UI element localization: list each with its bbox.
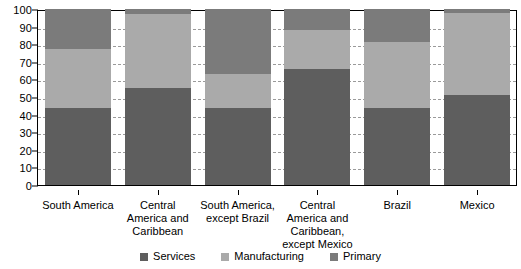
bar-6[interactable]	[444, 11, 510, 185]
x-axis-label-line: America and	[262, 212, 372, 225]
x-axis-label-line: Mexico	[422, 199, 521, 212]
bars-layer	[38, 11, 516, 185]
y-tick-label: 10	[20, 163, 32, 174]
legend-item-primary[interactable]: Primary	[330, 251, 381, 262]
y-tick-label: 50	[20, 93, 32, 104]
y-axis: 0102030405060708090100	[0, 0, 38, 192]
bar-segment-manufacturing[interactable]	[284, 30, 350, 69]
legend-label: Manufacturing	[234, 251, 304, 262]
bar-segment-services[interactable]	[364, 108, 430, 185]
x-axis-label-6: Mexico	[422, 199, 521, 212]
y-tick-label: 90	[20, 22, 32, 33]
y-tick-label: 40	[20, 110, 32, 121]
x-tick-mark	[238, 190, 239, 195]
y-tick-label: 20	[20, 145, 32, 156]
bar-segment-services[interactable]	[125, 88, 191, 185]
bar-segment-services[interactable]	[45, 108, 111, 185]
plot-area	[38, 10, 517, 186]
x-tick-mark	[78, 190, 79, 195]
bar-segment-services[interactable]	[284, 69, 350, 185]
stacked-bar-chart: 0102030405060708090100 South AmericaCent…	[0, 0, 521, 269]
x-tick-mark	[317, 190, 318, 195]
legend-swatch-icon	[221, 253, 229, 261]
legend-swatch-icon	[330, 253, 338, 261]
x-tick-mark	[158, 190, 159, 195]
bar-segment-manufacturing[interactable]	[444, 13, 510, 96]
y-tick-label: 80	[20, 40, 32, 51]
legend-label: Primary	[343, 251, 381, 262]
legend-swatch-icon	[140, 253, 148, 261]
chart-legend: ServicesManufacturingPrimary	[0, 251, 521, 262]
bar-segment-primary[interactable]	[125, 9, 191, 14]
bar-3[interactable]	[205, 11, 271, 185]
bar-segment-manufacturing[interactable]	[45, 49, 111, 107]
bar-segment-services[interactable]	[205, 108, 271, 185]
bar-segment-primary[interactable]	[444, 9, 510, 13]
bar-segment-primary[interactable]	[364, 9, 430, 42]
bar-4[interactable]	[284, 11, 350, 185]
y-tick-label: 60	[20, 75, 32, 86]
bar-segment-primary[interactable]	[205, 9, 271, 74]
bar-segment-primary[interactable]	[45, 9, 111, 49]
bar-2[interactable]	[125, 11, 191, 185]
x-tick-mark	[397, 190, 398, 195]
legend-item-manufacturing[interactable]: Manufacturing	[221, 251, 304, 262]
x-axis-labels: South AmericaCentralAmerica andCaribbean…	[38, 190, 517, 246]
y-tick-label: 100	[13, 5, 32, 16]
y-tick-label: 30	[20, 128, 32, 139]
bar-segment-manufacturing[interactable]	[125, 14, 191, 88]
bar-segment-services[interactable]	[444, 95, 510, 185]
bar-1[interactable]	[45, 11, 111, 185]
legend-item-services[interactable]: Services	[140, 251, 195, 262]
y-tick-label: 70	[20, 57, 32, 68]
bar-segment-primary[interactable]	[284, 9, 350, 30]
x-tick-mark	[477, 190, 478, 195]
legend-label: Services	[153, 251, 195, 262]
bar-5[interactable]	[364, 11, 430, 185]
bar-segment-manufacturing[interactable]	[205, 74, 271, 107]
x-axis-label-line: Caribbean,	[262, 225, 372, 238]
bar-segment-manufacturing[interactable]	[364, 42, 430, 107]
x-axis-label-line: Caribbean	[103, 225, 213, 238]
